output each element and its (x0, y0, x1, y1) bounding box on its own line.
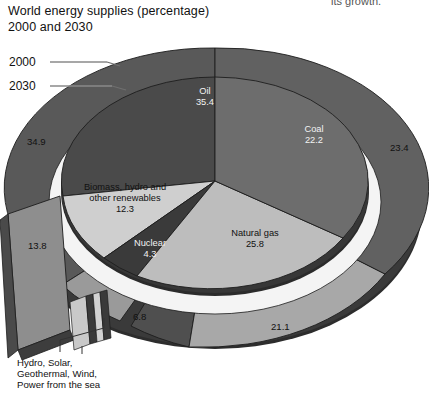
chart-figure: World energy supplies (percentage) 2000 … (0, 0, 429, 393)
label-natural-gas: Natural gas 25.8 (218, 228, 292, 250)
legend-item-2000[interactable]: 2000 (9, 55, 36, 69)
label-renewables: Biomass, hydro and other renewables 12.3 (62, 182, 188, 214)
ring-value-oil: 34.9 (27, 136, 46, 147)
ring-value-renewables: 13.8 (28, 240, 47, 251)
exploded-caption-line2: Geothermal, Wind, (17, 368, 97, 379)
ring-value-coal: 23.4 (390, 142, 409, 153)
legend-item-2030[interactable]: 2030 (9, 79, 36, 93)
label-coal: Coal 22.2 (288, 124, 340, 146)
ring-value-nuclear: 6.8 (133, 311, 146, 322)
exploded-caption-line3: Power from the sea (17, 379, 100, 390)
exploded-caption-line1: Hydro, Solar, (17, 357, 72, 368)
label-oil: Oil 35.4 (176, 86, 234, 108)
ring-value-natural-gas: 21.1 (271, 321, 290, 332)
label-nuclear: Nuclear 4.3 (124, 238, 176, 260)
